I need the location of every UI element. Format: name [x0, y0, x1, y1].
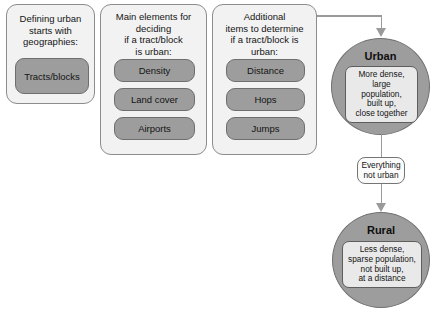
edge-label-everything-not-urban: Everything not urban [357, 157, 405, 184]
pill-airports[interactable]: Airports [114, 117, 195, 140]
outcome-rural-label: Rural [333, 224, 429, 236]
outcome-rural-note: Less dense, sparse population, not built… [342, 241, 422, 288]
panel-geographies-title: Defining urban starts with geographies: [10, 13, 91, 48]
pill-jumps[interactable]: Jumps [226, 117, 305, 140]
pill-tracts-blocks[interactable]: Tracts/blocks [15, 58, 89, 94]
connector-to-urban-vertical [381, 15, 383, 29]
pill-land-cover[interactable]: Land cover [114, 88, 195, 111]
outcome-urban-label: Urban [332, 50, 429, 62]
outcome-urban: Urban More dense, large population, buil… [331, 38, 430, 135]
outcome-rural: Rural Less dense, sparse population, not… [332, 212, 430, 308]
outcome-urban-note: More dense, large population, built up, … [345, 66, 418, 123]
panel-main-elements: Main elements for deciding if a tract/bl… [100, 4, 207, 155]
arrowhead-to-rural [376, 203, 386, 212]
panel-additional-items-title: Additional items to determine if a tract… [216, 11, 313, 57]
pill-distance[interactable]: Distance [226, 59, 305, 82]
arrowhead-to-urban [376, 28, 386, 37]
pill-density[interactable]: Density [114, 59, 195, 82]
pill-hops[interactable]: Hops [226, 88, 305, 111]
panel-geographies: Defining urban starts with geographies: … [6, 4, 95, 104]
panel-additional-items: Additional items to determine if a tract… [212, 4, 317, 155]
connector-urban-to-label [381, 133, 383, 158]
flowchart-diagram: Defining urban starts with geographies: … [0, 0, 437, 311]
panel-main-elements-title: Main elements for deciding if a tract/bl… [104, 11, 203, 57]
connector-to-urban-horizontal [317, 15, 382, 17]
connector-label-to-rural [381, 184, 383, 204]
